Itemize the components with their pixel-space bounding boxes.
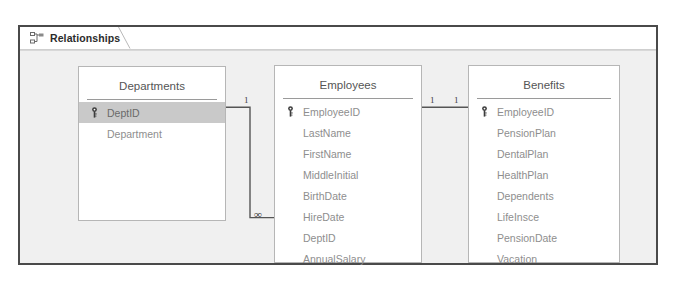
field-name: PensionPlan [497, 127, 556, 139]
table-title: Departments [87, 73, 217, 100]
tab-strip: Relationships [20, 27, 656, 49]
relationship-line-departments-employees[interactable] [226, 107, 274, 217]
table-title: Benefits [477, 72, 611, 99]
field-name: PensionDate [497, 232, 557, 244]
field-row[interactable]: Vacation [469, 248, 619, 269]
field-name: Dependents [497, 190, 554, 202]
field-name: EmployeeID [303, 106, 360, 118]
relationships-icon [30, 32, 44, 44]
field-row[interactable]: LifeInsce [469, 206, 619, 227]
surface-top-divider [20, 50, 656, 51]
table-box-departments[interactable]: Departments DeptIDDepartment [78, 66, 226, 221]
field-name: HireDate [303, 211, 344, 223]
tab-label: Relationships [50, 32, 120, 44]
field-row[interactable]: DentalPlan [469, 143, 619, 164]
field-row[interactable]: LastName [275, 122, 421, 143]
field-name: Vacation [497, 253, 537, 265]
key-slot [481, 106, 497, 117]
field-list: EmployeeIDLastNameFirstNameMiddleInitial… [275, 101, 421, 269]
field-name: AnnualSalary [303, 253, 365, 265]
table-box-benefits[interactable]: Benefits EmployeeIDPensionPlanDentalPlan… [468, 65, 620, 263]
field-row[interactable]: Department [79, 123, 225, 144]
field-row[interactable]: BirthDate [275, 185, 421, 206]
field-name: DeptID [107, 107, 140, 119]
field-name: DentalPlan [497, 148, 548, 160]
field-name: BirthDate [303, 190, 347, 202]
field-row[interactable]: MiddleInitial [275, 164, 421, 185]
field-row[interactable]: FirstName [275, 143, 421, 164]
field-row[interactable]: DeptID [79, 102, 225, 123]
field-name: LastName [303, 127, 351, 139]
field-row[interactable]: HealthPlan [469, 164, 619, 185]
cardinality-departments-one: 1 [244, 96, 249, 105]
table-title: Employees [283, 72, 413, 99]
tab-slant-edge [118, 27, 134, 49]
cardinality-benefits-one: 1 [454, 96, 459, 105]
field-name: EmployeeID [497, 106, 554, 118]
field-list: DeptIDDepartment [79, 102, 225, 144]
field-name: HealthPlan [497, 169, 548, 181]
field-row[interactable]: PensionPlan [469, 122, 619, 143]
field-name: FirstName [303, 148, 351, 160]
field-row[interactable]: EmployeeID [469, 101, 619, 122]
table-box-employees[interactable]: Employees EmployeeIDLastNameFirstNameMid… [274, 65, 422, 263]
field-row[interactable]: AnnualSalary [275, 248, 421, 269]
primary-key-icon [481, 106, 488, 117]
primary-key-icon [287, 106, 294, 117]
tab-relationships[interactable]: Relationships [24, 27, 124, 49]
primary-key-icon [91, 107, 98, 118]
key-slot [91, 107, 107, 118]
field-name: Department [107, 128, 162, 140]
field-list: EmployeeIDPensionPlanDentalPlanHealthPla… [469, 101, 619, 269]
key-slot [287, 106, 303, 117]
relationships-window: Relationships Departments DeptIDDepartme… [18, 25, 658, 265]
field-row[interactable]: Dependents [469, 185, 619, 206]
cardinality-employees-many: ∞ [254, 209, 261, 220]
field-row[interactable]: EmployeeID [275, 101, 421, 122]
relationships-design-surface[interactable]: Departments DeptIDDepartment Employees E… [20, 49, 656, 263]
field-row[interactable]: HireDate [275, 206, 421, 227]
field-name: MiddleInitial [303, 169, 358, 181]
field-row[interactable]: DeptID [275, 227, 421, 248]
cardinality-employees-one: 1 [430, 96, 435, 105]
field-row[interactable]: PensionDate [469, 227, 619, 248]
field-name: DeptID [303, 232, 336, 244]
field-name: LifeInsce [497, 211, 539, 223]
